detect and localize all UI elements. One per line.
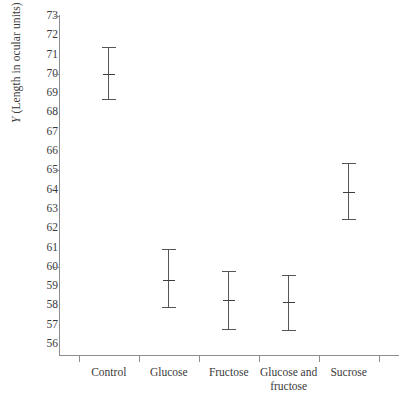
error-bar-cap-upper [162, 249, 176, 250]
error-bar [342, 0, 356, 399]
y-axis-title-text: (Length in ocular units) [10, 2, 22, 116]
error-bar-cap-lower [102, 99, 116, 100]
mean-marker [103, 74, 115, 75]
y-axis-tick-labels: 737271706968676665646362616059585756 [32, 0, 58, 399]
x-tick-mark [259, 356, 260, 362]
y-tick-label: 58 [32, 299, 58, 311]
y-tick-label: 56 [32, 338, 58, 350]
y-tick-label: 59 [32, 280, 58, 292]
y-tick-label: 69 [32, 87, 58, 99]
y-tick-label: 72 [32, 29, 58, 41]
x-tick-mark [319, 356, 320, 362]
error-bar-chart: Y (Length in ocular units) 7372717069686… [0, 0, 404, 399]
mean-marker [343, 192, 355, 193]
error-bar-cap-lower [162, 307, 176, 308]
y-tick-label: 57 [32, 319, 58, 331]
x-category-label-line2: fructose [244, 380, 334, 394]
error-bar-cap-upper [222, 271, 236, 272]
error-bar [162, 0, 176, 399]
x-tick-mark [379, 356, 380, 362]
x-tick-mark [139, 356, 140, 362]
error-bar [282, 0, 296, 399]
error-bar [102, 0, 116, 399]
y-axis-title-symbol: Y [10, 117, 22, 124]
y-tick-label: 62 [32, 222, 58, 234]
error-bar-cap-upper [342, 163, 356, 164]
mean-marker [283, 302, 295, 303]
mean-marker [223, 300, 235, 301]
error-bar-cap-lower [222, 329, 236, 330]
error-bar-line [168, 249, 169, 307]
x-tick-mark [199, 356, 200, 362]
x-category-label: Sucrose [304, 366, 394, 380]
mean-marker [163, 280, 175, 281]
y-tick-label: 63 [32, 203, 58, 215]
y-axis-title: Y (Length in ocular units) [10, 0, 24, 123]
y-tick-label: 68 [32, 106, 58, 118]
error-bar-cap-lower [282, 330, 296, 331]
y-tick-label: 66 [32, 145, 58, 157]
y-axis-line [59, 15, 60, 356]
y-tick-label: 71 [32, 49, 58, 61]
error-bar-cap-upper [102, 47, 116, 48]
error-bar [222, 0, 236, 399]
y-tick-label: 61 [32, 242, 58, 254]
x-tick-mark [79, 356, 80, 362]
y-tick-label: 64 [32, 184, 58, 196]
x-category-label-line1: Sucrose [304, 366, 394, 380]
error-bar-cap-lower [342, 219, 356, 220]
y-tick-label: 67 [32, 126, 58, 138]
error-bar-cap-upper [282, 275, 296, 276]
